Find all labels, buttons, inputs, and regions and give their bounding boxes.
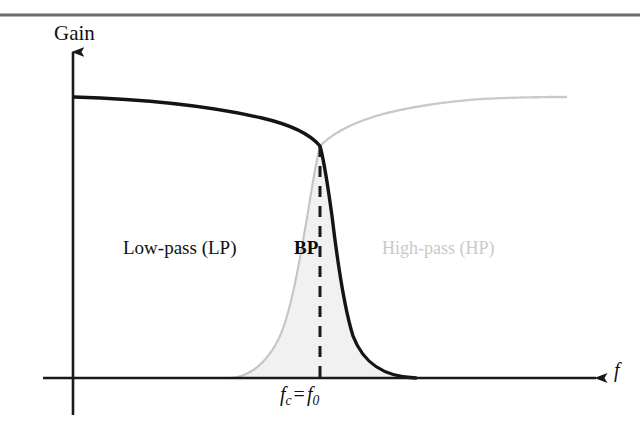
- filter-response-figure: Gain Low-pass (LP) BP High-pass (HP) fc=…: [0, 0, 640, 433]
- highpass-region-label: High-pass (HP): [382, 239, 495, 257]
- bandpass-shaded-region: [230, 146, 415, 378]
- highpass-curve: [320, 97, 566, 146]
- x-axis-label-frequency: f: [614, 360, 620, 380]
- y-axis-label-gain: Gain: [54, 23, 95, 44]
- cutoff-c-subscript: c: [286, 393, 292, 408]
- cutoff-frequency-label: fc=f0: [280, 384, 319, 407]
- figure-canvas: [0, 0, 640, 433]
- resonant-zero-subscript: 0: [312, 393, 319, 408]
- cutoff-equals-sign: =: [292, 383, 307, 405]
- bandpass-region-label: BP: [294, 238, 318, 257]
- lowpass-region-label: Low-pass (LP): [123, 238, 236, 257]
